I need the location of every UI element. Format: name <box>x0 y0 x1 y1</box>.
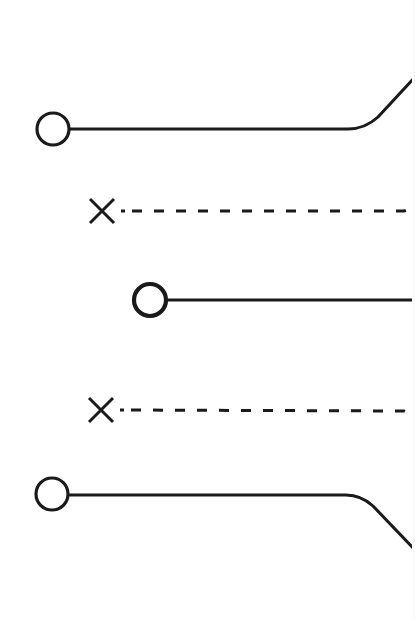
diagram-canvas <box>0 0 415 619</box>
terminal-circle-icon <box>134 284 166 316</box>
no-connect-2 <box>89 398 415 422</box>
solid-lead-line <box>69 77 415 129</box>
solid-lead-line <box>68 495 415 550</box>
dashed-lead-line <box>120 410 415 416</box>
no-connect-1 <box>90 199 415 223</box>
lead-diagram <box>0 0 415 619</box>
terminal-3 <box>36 478 415 550</box>
terminal-2 <box>134 284 415 316</box>
x-marker-icon <box>90 199 114 223</box>
terminal-1 <box>37 77 415 145</box>
terminal-circle-icon <box>36 478 68 510</box>
x-marker-icon <box>89 398 113 422</box>
terminal-circle-icon <box>37 113 69 145</box>
dashed-lead-line <box>121 207 415 211</box>
